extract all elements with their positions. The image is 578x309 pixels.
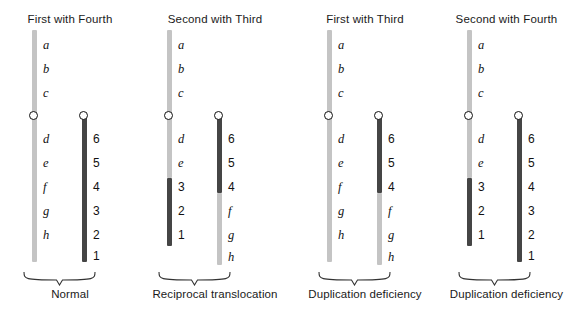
chromatid-segment-light (327, 30, 332, 262)
panel-caption: Duplication deficiency (295, 288, 435, 300)
chromatid-segment-dark (167, 178, 172, 246)
centromere-icon (79, 111, 88, 120)
locus-label: 6 (528, 133, 535, 145)
panel-caption: Reciprocal translocation (140, 288, 290, 300)
panel-caption: Duplication deficiency (435, 288, 578, 300)
chromatid-segment-light (32, 30, 37, 262)
locus-label: 4 (388, 181, 395, 193)
locus-label: e (43, 157, 49, 170)
locus-label: c (338, 87, 344, 100)
locus-label: g (43, 205, 49, 218)
chromatid-segment-light (167, 30, 172, 178)
locus-label: 4 (228, 181, 235, 193)
panel-title: First with Third (295, 13, 435, 25)
locus-label: 6 (93, 133, 100, 145)
locus-label: c (178, 87, 184, 100)
locus-label: 1 (528, 250, 535, 262)
centromere-icon (29, 111, 38, 120)
locus-label: 2 (478, 205, 485, 217)
locus-label: a (43, 39, 49, 52)
locus-label: f (43, 181, 46, 194)
locus-label: b (338, 63, 344, 76)
centromere-icon (514, 111, 523, 120)
locus-label: 2 (528, 229, 535, 241)
locus-label: e (478, 157, 484, 170)
locus-label: g (228, 229, 234, 242)
locus-label: h (43, 229, 49, 242)
locus-label: h (228, 251, 234, 264)
locus-label: h (338, 229, 344, 242)
panel-title: Second with Third (140, 13, 290, 25)
locus-label: g (338, 205, 344, 218)
panel-3: First with Thirdabcdefgh654fghDuplicatio… (295, 0, 435, 309)
centromere-icon (324, 111, 333, 120)
chromatid-segment-light (467, 30, 472, 178)
panel-caption: Normal (0, 288, 140, 300)
locus-label: 3 (478, 181, 485, 193)
brace (158, 272, 231, 286)
brace (318, 272, 391, 286)
locus-label: 5 (388, 157, 395, 169)
locus-label: 5 (228, 157, 235, 169)
locus-label: 6 (388, 133, 395, 145)
chromatid-segment-dark (82, 115, 87, 262)
locus-label: 4 (93, 181, 100, 193)
locus-label: f (388, 205, 391, 218)
panel-1: First with Fourthabcdefgh654321Normal (0, 0, 140, 309)
locus-label: d (478, 133, 484, 146)
locus-label: b (43, 63, 49, 76)
chromatid-segment-dark (217, 115, 222, 193)
locus-label: d (178, 133, 184, 146)
chromosome-translocation-figure: First with Fourthabcdefgh654321NormalSec… (0, 0, 578, 309)
panel-4: Second with Fourthabcde321654321Duplicat… (435, 0, 578, 309)
locus-label: 2 (178, 205, 185, 217)
locus-label: e (338, 157, 344, 170)
locus-label: 5 (528, 157, 535, 169)
locus-label: c (43, 87, 49, 100)
locus-label: 4 (528, 181, 535, 193)
locus-label: e (178, 157, 184, 170)
locus-label: d (338, 133, 344, 146)
centromere-icon (464, 111, 473, 120)
locus-label: h (388, 251, 394, 264)
locus-label: 1 (178, 229, 185, 241)
locus-label: 5 (93, 157, 100, 169)
locus-label: 3 (528, 205, 535, 217)
locus-label: d (43, 133, 49, 146)
locus-label: 2 (93, 229, 100, 241)
locus-label: 3 (93, 205, 100, 217)
centromere-icon (164, 111, 173, 120)
centromere-icon (214, 111, 223, 120)
locus-label: g (388, 229, 394, 242)
locus-label: a (338, 39, 344, 52)
centromere-icon (374, 111, 383, 120)
locus-label: a (178, 39, 184, 52)
panel-title: Second with Fourth (435, 13, 578, 25)
locus-label: f (228, 205, 231, 218)
chromatid-segment-light (377, 193, 382, 265)
locus-label: f (338, 181, 341, 194)
brace (23, 272, 96, 286)
chromatid-segment-dark (377, 115, 382, 193)
locus-label: b (478, 63, 484, 76)
locus-label: a (478, 39, 484, 52)
brace (458, 272, 531, 286)
locus-label: 1 (93, 250, 100, 262)
locus-label: 6 (228, 133, 235, 145)
panel-2: Second with Thirdabcde321654fghReciproca… (140, 0, 290, 309)
chromatid-segment-dark (517, 115, 522, 262)
locus-label: 3 (178, 181, 185, 193)
locus-label: 1 (478, 229, 485, 241)
locus-label: c (478, 87, 484, 100)
locus-label: b (178, 63, 184, 76)
chromatid-segment-dark (467, 178, 472, 246)
panel-title: First with Fourth (0, 13, 140, 25)
chromatid-segment-light (217, 193, 222, 265)
